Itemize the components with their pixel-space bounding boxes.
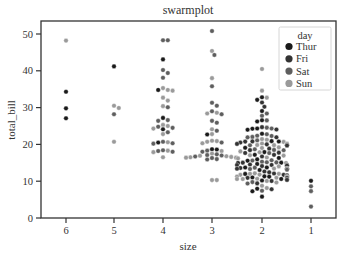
data-point xyxy=(161,123,166,128)
data-point xyxy=(267,170,272,175)
data-point xyxy=(156,140,161,145)
data-point xyxy=(151,141,156,146)
data-point xyxy=(229,155,234,160)
data-point xyxy=(64,116,69,121)
data-point xyxy=(250,180,255,185)
data-point xyxy=(166,105,171,110)
data-point xyxy=(210,109,215,114)
data-point xyxy=(112,140,117,145)
data-point xyxy=(166,38,171,43)
data-point xyxy=(260,159,265,164)
data-point xyxy=(255,181,260,186)
data-point xyxy=(277,145,282,150)
data-point xyxy=(274,175,279,180)
y-tick-label: 20 xyxy=(23,139,34,150)
data-point xyxy=(265,111,270,116)
legend-marker-icon xyxy=(285,55,292,62)
data-point xyxy=(255,186,260,191)
data-point xyxy=(215,120,220,125)
data-point xyxy=(210,76,215,81)
data-point xyxy=(212,53,217,58)
data-point xyxy=(309,184,314,189)
legend-marker-icon xyxy=(285,80,292,87)
legend-marker-icon xyxy=(285,43,292,50)
data-point xyxy=(260,109,265,114)
data-point xyxy=(269,134,274,139)
data-point xyxy=(269,126,274,131)
data-point xyxy=(269,139,274,144)
data-point xyxy=(117,106,122,111)
data-point xyxy=(161,68,166,73)
data-point xyxy=(255,119,260,124)
data-point xyxy=(248,153,253,158)
data-point xyxy=(260,194,265,199)
data-point xyxy=(166,118,171,123)
data-point xyxy=(277,150,282,155)
data-point xyxy=(245,176,250,181)
data-point xyxy=(205,132,210,137)
data-point xyxy=(257,150,262,155)
data-point xyxy=(170,88,175,93)
data-point xyxy=(272,148,277,153)
legend-label: Fri xyxy=(296,53,308,64)
data-point xyxy=(219,140,224,145)
legend-label: Thur xyxy=(296,41,317,52)
data-point xyxy=(267,146,272,151)
data-point xyxy=(64,106,69,111)
legend-label: Sun xyxy=(296,78,313,89)
data-point xyxy=(252,147,257,152)
data-point xyxy=(265,179,270,184)
data-point xyxy=(170,149,175,154)
data-point xyxy=(250,135,255,140)
data-point xyxy=(265,118,270,123)
data-point xyxy=(260,141,265,146)
y-tick-label: 40 xyxy=(23,65,34,76)
data-point xyxy=(274,127,279,132)
data-point xyxy=(215,110,220,115)
data-point xyxy=(255,138,260,143)
y-tick-label: 50 xyxy=(23,29,34,40)
data-point xyxy=(279,177,284,182)
data-point xyxy=(240,177,245,182)
data-point xyxy=(260,146,265,151)
data-point xyxy=(210,151,215,156)
data-point xyxy=(238,149,243,154)
data-point xyxy=(281,148,286,153)
data-point xyxy=(260,100,265,105)
data-point xyxy=(210,84,215,89)
data-point xyxy=(224,154,229,159)
data-point xyxy=(210,29,215,34)
data-point xyxy=(161,75,166,80)
data-point xyxy=(243,165,248,170)
data-point xyxy=(260,125,265,130)
legend-label: Sat xyxy=(296,66,310,77)
y-axis-label: total_bill xyxy=(5,100,17,140)
data-point xyxy=(193,154,198,159)
data-point xyxy=(219,112,224,117)
data-point xyxy=(64,89,69,94)
data-point xyxy=(219,153,224,158)
data-point xyxy=(250,158,255,163)
data-point xyxy=(161,148,166,153)
data-point xyxy=(161,140,166,145)
data-point xyxy=(255,126,260,131)
data-point xyxy=(215,103,220,108)
data-point xyxy=(210,127,215,132)
data-point xyxy=(272,166,277,171)
data-point xyxy=(166,98,171,103)
data-point xyxy=(64,38,69,43)
data-point xyxy=(267,174,272,179)
data-point xyxy=(215,152,220,157)
data-point xyxy=(151,150,156,155)
data-point xyxy=(277,139,282,144)
data-point xyxy=(245,135,250,140)
data-point xyxy=(309,204,314,209)
data-point xyxy=(198,154,203,159)
data-point xyxy=(281,153,286,158)
data-point xyxy=(265,186,270,191)
data-point xyxy=(274,135,279,140)
data-point xyxy=(156,119,161,124)
y-tick-label: 0 xyxy=(28,213,33,224)
data-point xyxy=(248,167,253,172)
data-point xyxy=(250,189,255,194)
